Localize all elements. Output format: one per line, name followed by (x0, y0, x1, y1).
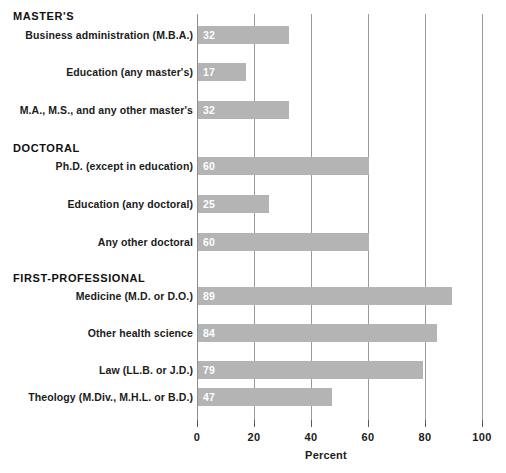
bar: 47 (198, 388, 332, 406)
x-tick-label-20: 20 (248, 431, 261, 443)
bar-value-label: 32 (203, 104, 215, 116)
bar-row: Education (any master's)17 (197, 61, 482, 83)
x-tick-label-0: 0 (194, 431, 200, 443)
x-tick-0 (197, 420, 198, 427)
bar-row: Ph.D. (except in education)60 (197, 155, 482, 177)
x-tick-80 (425, 420, 426, 427)
plot-area: Business administration (M.B.A.)32Educat… (197, 14, 482, 420)
bar-category-label: Law (LL.B. or J.D.) (99, 364, 193, 376)
bar-category-label: Medicine (M.D. or D.O.) (76, 290, 193, 302)
bar: 60 (198, 157, 369, 175)
x-tick-label-100: 100 (472, 431, 491, 443)
bar-category-label: Other health science (88, 327, 193, 339)
bar-category-label: Education (any master's) (66, 66, 193, 78)
x-tick-label-60: 60 (362, 431, 375, 443)
bar-value-label: 25 (203, 198, 215, 210)
bar-row: M.A., M.S., and any other master's32 (197, 99, 482, 121)
gridline-100 (482, 14, 483, 420)
bar-row: Medicine (M.D. or D.O.)89 (197, 285, 482, 307)
bar: 60 (198, 233, 369, 251)
section-heading-2: FIRST-PROFESSIONAL (13, 272, 145, 284)
x-tick-40 (311, 420, 312, 427)
bar-row: Business administration (M.B.A.)32 (197, 24, 482, 46)
x-tick-label-80: 80 (419, 431, 432, 443)
bar: 32 (198, 101, 289, 119)
bar-value-label: 17 (203, 66, 215, 78)
x-tick-60 (368, 420, 369, 427)
bar-value-label: 84 (203, 327, 215, 339)
bar-row: Education (any doctoral)25 (197, 193, 482, 215)
x-axis-title: Percent (0, 449, 506, 461)
bar-row: Theology (M.Div., M.H.L. or B.D.)47 (197, 386, 482, 408)
bar: 32 (198, 26, 289, 44)
bar: 79 (198, 361, 423, 379)
x-tick-label-40: 40 (305, 431, 318, 443)
bar-value-label: 47 (203, 391, 215, 403)
bar-row: Any other doctoral60 (197, 231, 482, 253)
bar-value-label: 79 (203, 364, 215, 376)
bar: 84 (198, 324, 437, 342)
bar-category-label: Ph.D. (except in education) (56, 160, 193, 172)
bar-category-label: Any other doctoral (98, 236, 193, 248)
x-tick-100 (482, 420, 483, 427)
bar-value-label: 60 (203, 160, 215, 172)
bar-category-label: M.A., M.S., and any other master's (20, 104, 193, 116)
section-heading-0: MASTER'S (13, 10, 74, 22)
bar-chart: Business administration (M.B.A.)32Educat… (0, 0, 506, 473)
x-tick-20 (254, 420, 255, 427)
bar-row: Other health science84 (197, 322, 482, 344)
bar-category-label: Business administration (M.B.A.) (25, 29, 193, 41)
bar-category-label: Theology (M.Div., M.H.L. or B.D.) (28, 391, 193, 403)
bar-value-label: 60 (203, 236, 215, 248)
bar-category-label: Education (any doctoral) (68, 198, 194, 210)
bar: 17 (198, 63, 246, 81)
x-axis-title-text: Percent (305, 449, 347, 461)
bar-value-label: 32 (203, 29, 215, 41)
bar: 89 (198, 287, 452, 305)
bar: 25 (198, 195, 269, 213)
section-heading-1: DOCTORAL (13, 142, 80, 154)
bar-row: Law (LL.B. or J.D.)79 (197, 359, 482, 381)
bar-value-label: 89 (203, 290, 215, 302)
